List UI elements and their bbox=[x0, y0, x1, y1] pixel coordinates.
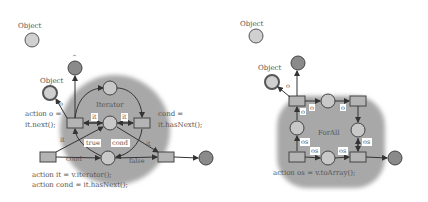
edge-it-left: it bbox=[92, 113, 97, 121]
object-label-input: Object bbox=[258, 64, 281, 72]
place-top[interactable] bbox=[321, 94, 335, 108]
transition-hasnext[interactable] bbox=[134, 118, 150, 128]
transition-br[interactable] bbox=[350, 152, 366, 162]
end-place[interactable] bbox=[388, 151, 402, 165]
cond-hasnext-line1: cond = bbox=[158, 110, 183, 118]
petri-net-canvas: Object ^ Object Iterator bbox=[0, 0, 428, 202]
object-label-top: Object bbox=[240, 20, 263, 28]
action-toarray: action os = v.toArray(); bbox=[273, 169, 355, 177]
place-bottom[interactable] bbox=[321, 151, 335, 165]
transition-tr[interactable] bbox=[350, 96, 366, 106]
transition-tl[interactable] bbox=[289, 96, 305, 106]
arc-label-o: o bbox=[59, 100, 63, 108]
place-right[interactable] bbox=[351, 123, 365, 137]
edge-os-2: os bbox=[311, 147, 318, 155]
action-next-line2: it.next(); bbox=[25, 121, 56, 129]
edge-os-1: os bbox=[301, 138, 308, 146]
region-label-iterator: Iterator bbox=[96, 101, 124, 109]
place-left[interactable] bbox=[290, 121, 304, 135]
transition-bl[interactable] bbox=[289, 152, 305, 162]
place-cond[interactable] bbox=[101, 151, 115, 165]
action-next-line1: action o = bbox=[25, 110, 62, 118]
edge-true: true bbox=[86, 139, 100, 147]
edge-os-3: os bbox=[339, 147, 346, 155]
place-top[interactable] bbox=[103, 81, 117, 95]
region-label-forall: ForAll bbox=[318, 129, 340, 137]
object-place-top[interactable] bbox=[25, 33, 39, 47]
edge-it-right: it bbox=[122, 113, 127, 121]
transition-next[interactable] bbox=[67, 118, 83, 128]
action-init-line2: action cond = it.hasNext(); bbox=[32, 181, 128, 189]
output-place[interactable] bbox=[68, 61, 82, 75]
edge-cond-mid: cond bbox=[112, 139, 128, 147]
edge-o-2: o bbox=[341, 104, 345, 112]
transition-exit[interactable] bbox=[158, 152, 174, 162]
arc-label-o: o bbox=[286, 82, 290, 90]
edge-os-4: os bbox=[363, 138, 370, 146]
cond-hasnext-line2: it.hasNext(); bbox=[158, 121, 202, 129]
object-label-top: Object bbox=[18, 22, 41, 30]
object-place-input[interactable] bbox=[43, 86, 57, 100]
end-place[interactable] bbox=[199, 151, 213, 165]
action-init-line1: action it = v.iterator(); bbox=[32, 171, 112, 179]
transition-init[interactable] bbox=[40, 152, 56, 162]
edge-false: false bbox=[129, 157, 145, 165]
object-label-input: Object bbox=[40, 77, 63, 85]
output-place[interactable] bbox=[291, 56, 305, 70]
edge-it-bottom-right: it bbox=[146, 140, 151, 148]
edge-cond-bottom: cond bbox=[66, 155, 82, 163]
place-iter[interactable] bbox=[103, 116, 117, 130]
edge-o-3: o bbox=[301, 108, 305, 116]
iterator-diagram: Object ^ Object Iterator bbox=[18, 22, 213, 189]
edge-it-bottom-left: it bbox=[60, 136, 65, 144]
object-place-input[interactable] bbox=[265, 75, 279, 89]
output-label: ^ bbox=[72, 53, 77, 60]
edge-o-1: o bbox=[310, 104, 314, 112]
forall-diagram: Object Object ForAll o o bbox=[240, 20, 402, 188]
object-place-top[interactable] bbox=[249, 29, 263, 43]
